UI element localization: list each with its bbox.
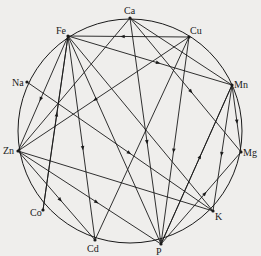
edges-group: [18, 18, 241, 244]
node-label-fe: Fe: [56, 25, 67, 36]
arrow-icon: [197, 154, 200, 159]
edge-cu-fe: [68, 36, 189, 37]
arrow-icon: [220, 152, 224, 157]
arrow-icon: [126, 150, 131, 154]
node-fe: [66, 34, 69, 37]
arrow-icon: [94, 199, 99, 203]
node-label-na: Na: [12, 77, 24, 88]
edge-mn-k: [213, 85, 232, 211]
node-label-co: Co: [30, 207, 42, 218]
arrow-icon: [156, 61, 161, 64]
node-label-ca: Ca: [124, 5, 136, 16]
node-label-mg: Mg: [243, 147, 257, 158]
edge-fe-k: [68, 36, 213, 211]
node-label-p: P: [156, 246, 162, 256]
edge-na-k: [27, 82, 213, 211]
node-label-zn: Zn: [3, 145, 14, 156]
edge-ca-mn: [130, 18, 232, 85]
node-cd: [93, 238, 96, 241]
node-label-k: K: [215, 211, 223, 222]
node-ca: [128, 16, 131, 19]
node-label-cd: Cd: [87, 243, 99, 254]
arrow-icon: [145, 140, 149, 145]
node-na: [25, 80, 28, 83]
edge-fe-mn: [68, 36, 232, 85]
edge-co-fe: [43, 36, 68, 210]
arrow-icon: [120, 35, 125, 39]
arrow-icon: [40, 96, 43, 101]
edge-ca-mg: [130, 18, 241, 152]
arrow-icon: [172, 148, 176, 153]
node-zn: [16, 149, 19, 152]
node-label-mn: Mn: [234, 79, 248, 90]
edge-p-mg: [161, 152, 241, 244]
arrow-icon: [235, 119, 239, 124]
arrow-icon: [55, 112, 59, 117]
arrow-icon: [81, 146, 85, 151]
node-label-cu: Cu: [190, 25, 202, 36]
edge-zn-cd: [18, 151, 95, 240]
node-co: [41, 208, 44, 211]
element-interaction-diagram: CaFeCuNaMnZnMgCoKCdP: [0, 0, 261, 256]
labels-group: CaFeCuNaMnZnMgCoKCdP: [3, 5, 257, 256]
arrows-group: [40, 35, 239, 204]
